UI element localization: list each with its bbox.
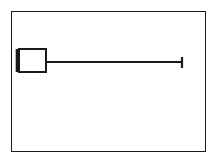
chart-title xyxy=(0,0,1,1)
iqr-box xyxy=(19,49,46,72)
y-axis-label xyxy=(0,0,1,1)
plot-area xyxy=(12,12,205,151)
boxplot-graphic xyxy=(12,12,204,150)
plot-frame xyxy=(11,11,206,152)
figure-root xyxy=(0,0,219,163)
x-axis-label xyxy=(0,0,1,1)
